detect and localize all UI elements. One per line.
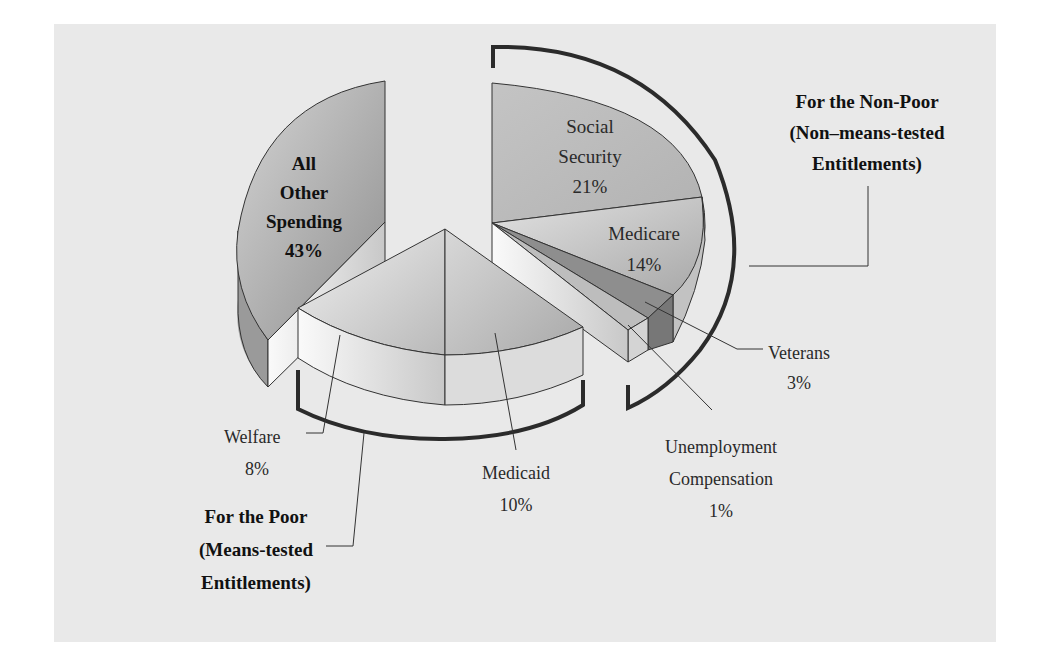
label-medicaid: Medicaid 10% <box>466 457 566 521</box>
label-pct: 10% <box>466 489 566 521</box>
label-pct: 14% <box>594 249 694 280</box>
label-line: (Non–means-tested <box>752 117 982 148</box>
label-line: For the Poor <box>178 500 334 533</box>
label-non-poor-group: For the Non-Poor (Non–means-tested Entit… <box>752 86 982 179</box>
label-medicare: Medicare 14% <box>594 218 694 280</box>
label-line: Medicaid <box>466 457 566 489</box>
label-line: (Means-tested <box>178 533 334 566</box>
label-social-security: Social Security 21% <box>530 112 650 202</box>
label-line: Entitlements) <box>178 566 334 599</box>
label-line: Other <box>244 178 364 207</box>
label-line: Security <box>530 142 650 172</box>
label-veterans: Veterans 3% <box>764 338 834 398</box>
label-poor-group: For the Poor (Means-tested Entitlements) <box>178 500 334 599</box>
label-unemployment: Unemployment Compensation 1% <box>656 431 786 527</box>
label-line: Entitlements) <box>752 148 982 179</box>
label-welfare: Welfare 8% <box>214 421 304 485</box>
label-pct: 43% <box>244 236 364 265</box>
label-line: All <box>244 149 364 178</box>
label-pct: 1% <box>656 495 786 527</box>
label-line: Unemployment <box>656 431 786 463</box>
label-pct: 21% <box>530 172 650 202</box>
label-pct: 3% <box>764 368 834 398</box>
label-line: Welfare <box>214 421 304 453</box>
label-pct: 8% <box>214 453 304 485</box>
label-line: Veterans <box>764 338 834 368</box>
label-line: Medicare <box>594 218 694 249</box>
label-line: Compensation <box>656 463 786 495</box>
label-line: Spending <box>244 207 364 236</box>
label-line: Social <box>530 112 650 142</box>
label-all-other: All Other Spending 43% <box>244 149 364 265</box>
label-line: For the Non-Poor <box>752 86 982 117</box>
